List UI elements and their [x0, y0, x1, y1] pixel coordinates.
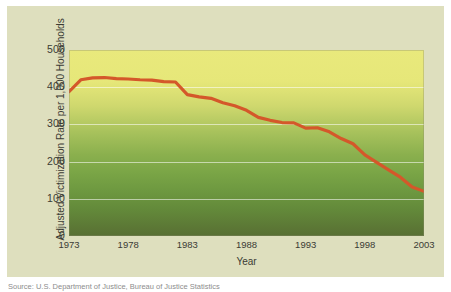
data-line-svg [69, 50, 424, 236]
x-tick-label: 1988 [236, 239, 257, 250]
y-tick-label: 500 [19, 43, 65, 55]
figure-caption: Source: U.S. Department of Justice, Bure… [8, 282, 448, 291]
x-tick-label: 1993 [295, 239, 316, 250]
chart-card: Adjusted Victimization Rate per 1,000 Ho… [7, 6, 444, 277]
y-tick-label: 200 [19, 155, 65, 167]
x-tick-label: 1983 [177, 239, 198, 250]
x-tick-label: 1973 [58, 239, 79, 250]
x-axis-label: Year [69, 256, 424, 267]
data-line [69, 78, 424, 192]
plot-area [69, 50, 424, 236]
x-tick-label: 2003 [413, 239, 434, 250]
figure-container: Adjusted Victimization Rate per 1,000 Ho… [0, 0, 451, 292]
x-tick-label: 1998 [354, 239, 375, 250]
y-tick-label: 100 [19, 192, 65, 204]
y-tick-label: 400 [19, 80, 65, 92]
y-tick-label: 300 [19, 117, 65, 129]
x-tick-label: 1978 [118, 239, 139, 250]
